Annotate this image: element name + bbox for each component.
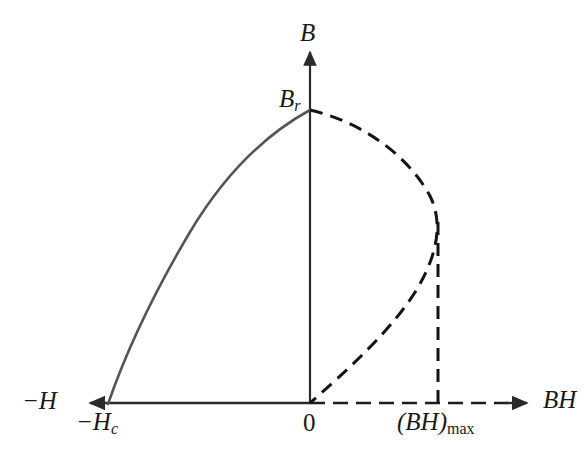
demagnetization-curve-figure: B Br −H −Hc 0 (BH)max BH [0,0,588,466]
bh-axis-label: BH [543,387,576,412]
demagnetization-curve [108,110,310,404]
neg-h-axis-label: −H [22,388,57,413]
origin-label: 0 [303,410,316,435]
b-axis-label: B [300,20,315,45]
bh-max-label: (BH)max [397,409,475,434]
figure-canvas [0,0,588,466]
energy-product-curve [310,110,437,403]
remanence-label: Br [279,86,301,111]
coercivity-label: −Hc [76,409,118,434]
